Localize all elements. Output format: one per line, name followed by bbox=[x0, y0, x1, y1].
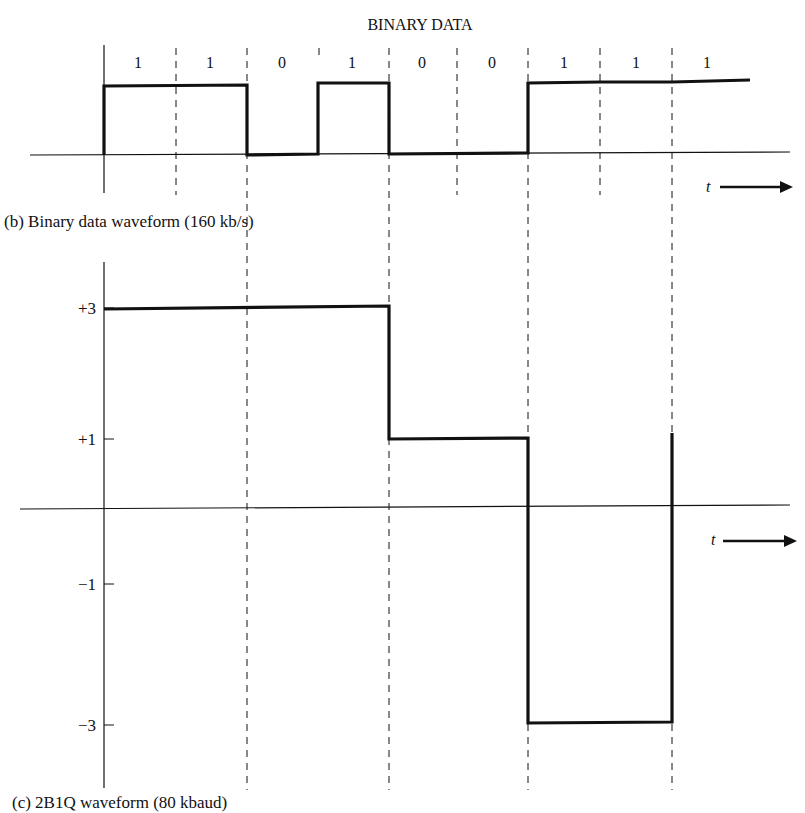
bit-label: 0 bbox=[418, 54, 426, 71]
bit-label: 0 bbox=[278, 54, 286, 71]
level-label-minus1: −1 bbox=[78, 575, 96, 594]
2b1q-waveform bbox=[104, 306, 672, 723]
x-axis bbox=[20, 505, 790, 509]
2b1q-waveform-caption: (c) 2B1Q waveform (80 kbaud) bbox=[12, 793, 227, 813]
binary-data-title: BINARY DATA bbox=[367, 16, 473, 33]
time-arrow-icon bbox=[723, 535, 797, 547]
bit-label: 1 bbox=[348, 54, 356, 71]
binary-waveform bbox=[104, 80, 750, 155]
binary-waveform-caption: (b) Binary data waveform (160 kb/s) bbox=[4, 212, 254, 232]
level-label-minus3: −3 bbox=[78, 716, 96, 735]
level-label-plus1: +1 bbox=[78, 430, 96, 449]
time-label: t bbox=[706, 178, 711, 195]
2b1q-panel: +3 +1 −1 −3 t bbox=[20, 262, 797, 788]
time-arrow-icon bbox=[720, 181, 793, 193]
bit-label: 1 bbox=[703, 54, 711, 71]
bit-label: 1 bbox=[632, 54, 640, 71]
binary-data-panel: BINARY DATA 1 1 0 1 0 0 1 1 1 t bbox=[30, 16, 793, 195]
bit-label: 0 bbox=[488, 54, 496, 71]
time-label: t bbox=[711, 531, 716, 548]
level-label-plus3: +3 bbox=[78, 299, 96, 318]
symbol-boundaries bbox=[247, 48, 672, 790]
bit-label: 1 bbox=[560, 54, 568, 71]
bit-label: 1 bbox=[134, 54, 142, 71]
bit-label: 1 bbox=[206, 54, 214, 71]
